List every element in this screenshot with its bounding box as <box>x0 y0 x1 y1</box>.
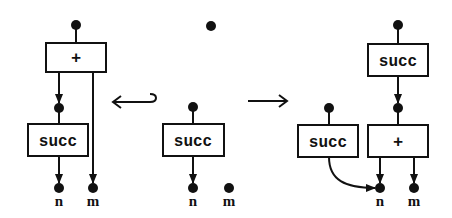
left-n-node <box>54 183 64 193</box>
right-n-node <box>375 183 385 193</box>
left-succ-label: succ <box>39 133 77 151</box>
right-plus-label: + <box>393 133 403 152</box>
middle-graph: succ n m <box>163 21 236 209</box>
right-m-label: m <box>408 193 421 209</box>
left-n-label: n <box>55 193 64 209</box>
term-graph-diagram: + succ n m succ n m <box>0 0 452 218</box>
middle-succ-label: succ <box>174 133 212 151</box>
middle-lone-node <box>206 21 216 31</box>
hook-left-arrow-icon <box>113 94 156 108</box>
right-n-label: n <box>376 193 385 209</box>
right-arrow-icon <box>248 95 287 107</box>
left-m-node <box>88 183 98 193</box>
right-lower-succ-label: succ <box>309 134 347 152</box>
middle-m-node <box>224 183 234 193</box>
right-top-succ-label: succ <box>379 53 417 71</box>
right-succ-to-n-curved-edge <box>329 157 375 188</box>
right-graph: succ + succ n m <box>298 20 428 209</box>
left-m-label: m <box>87 193 100 209</box>
middle-m-label: m <box>223 193 236 209</box>
middle-n-label: n <box>189 193 198 209</box>
left-plus-label: + <box>71 49 81 68</box>
right-m-node <box>409 183 419 193</box>
middle-n-node <box>188 183 198 193</box>
left-graph: + succ n m <box>28 20 106 209</box>
